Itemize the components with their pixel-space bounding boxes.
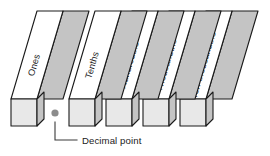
diagram-canvas: Ten-thousandths Thousandths Hundredths T… <box>0 0 270 156</box>
decimal-point-caption: Decimal point <box>82 135 142 146</box>
bar-front-face <box>11 99 37 126</box>
decimal-point-dot <box>51 109 58 116</box>
bar-front-face <box>69 99 95 126</box>
decimal-place-value-diagram: Ten-thousandths Thousandths Hundredths T… <box>0 0 270 156</box>
bar-front-face <box>106 99 132 126</box>
bar-front-face <box>143 99 169 126</box>
bar-front-face <box>180 99 206 126</box>
